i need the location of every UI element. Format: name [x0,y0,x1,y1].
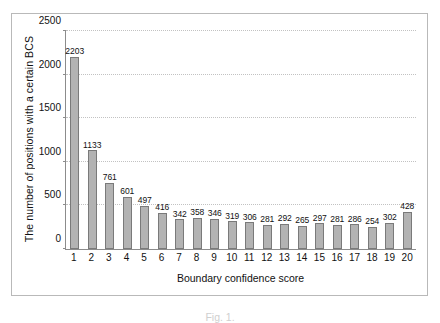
bar[interactable] [140,206,149,249]
bar-slot: 761 [101,31,119,249]
bar[interactable] [88,150,97,249]
bar[interactable] [368,227,377,249]
bar-value-label: 297 [313,214,327,223]
bar-value-label: 254 [365,217,379,226]
x-axis-title: Boundary confidence score [65,272,416,284]
x-axis-tick-label: 20 [398,252,416,266]
bar[interactable] [228,221,237,249]
x-axis-tick-label: 13 [276,252,294,266]
bar-value-label: 281 [330,215,344,224]
y-axis-tick-label: 1000 [39,145,61,156]
bar-value-label: 416 [155,203,169,212]
x-axis-tick-label: 2 [83,252,101,266]
bar-value-label: 1133 [83,141,101,150]
bar-value-label: 286 [348,215,362,224]
bar-series: 2203113376160149741634235834631930628129… [66,31,416,249]
bar[interactable] [245,222,254,249]
figure-caption-text: Fig. 1. [205,311,234,323]
bar-slot: 297 [311,31,329,249]
x-axis-tick-label: 14 [293,252,311,266]
bar-slot: 1133 [84,31,102,249]
bar-slot: 2203 [66,31,84,249]
bar-slot: 281 [259,31,277,249]
bar-value-label: 292 [278,214,292,223]
bar-slot: 497 [136,31,154,249]
bar[interactable] [123,197,132,249]
y-axis-tick-label: 1500 [39,102,61,113]
bar-slot: 346 [206,31,224,249]
bar-slot: 302 [381,31,399,249]
bar[interactable] [193,218,202,249]
bar[interactable] [70,57,79,249]
y-axis-tick-label: 500 [44,189,61,200]
bar-slot: 319 [224,31,242,249]
bar-slot: 265 [294,31,312,249]
bar-value-label: 761 [103,173,117,182]
bar-value-label: 428 [400,202,414,211]
bar[interactable] [280,224,289,249]
bar-value-label: 601 [120,187,134,196]
x-axis-tick-label: 15 [311,252,329,266]
bar[interactable] [298,226,307,249]
bar-slot: 254 [364,31,382,249]
x-axis-tick-label: 9 [205,252,223,266]
bar[interactable] [175,219,184,249]
x-axis-tick-label: 19 [381,252,399,266]
y-axis-tick-label: 0 [55,233,61,244]
y-axis-tick-label: 2000 [39,58,61,69]
bar-slot: 286 [346,31,364,249]
bar-value-label: 497 [138,196,152,205]
x-axis-tick-label: 12 [258,252,276,266]
x-axis-tick-label: 1 [65,252,83,266]
x-axis-tick-label: 18 [363,252,381,266]
plot-area: 05001000150020002500 2203113376160149741… [65,31,416,250]
x-axis-tick-label: 5 [135,252,153,266]
y-axis-title: The number of positions with a certain B… [21,30,37,248]
bar-slot: 601 [119,31,137,249]
x-axis-tick-label: 6 [153,252,171,266]
x-axis-tick-label: 16 [328,252,346,266]
x-axis-tick-label: 17 [346,252,364,266]
x-axis-tick-label: 7 [170,252,188,266]
bar-value-label: 265 [295,216,309,225]
bar-value-label: 358 [190,208,204,217]
bar[interactable] [315,223,324,249]
x-axis-title-label: Boundary confidence score [177,272,304,284]
x-axis-tick-label: 3 [100,252,118,266]
bar-slot: 428 [399,31,417,249]
bar[interactable] [385,223,394,249]
bar[interactable] [350,224,359,249]
x-axis-ticks: 1234567891011121314151617181920 [65,252,416,266]
y-axis-title-label: The number of positions with a certain B… [23,36,35,242]
bar-value-label: 302 [383,213,397,222]
bar-value-label: 306 [243,213,257,222]
x-axis-tick-label: 10 [223,252,241,266]
bar[interactable] [333,225,342,250]
bar-slot: 342 [171,31,189,249]
bar[interactable] [105,183,114,249]
bar-slot: 292 [276,31,294,249]
bar-value-label: 319 [225,212,239,221]
bar[interactable] [210,219,219,249]
figure-caption: Fig. 1. [0,311,440,323]
bar-slot: 358 [189,31,207,249]
chart-frame: The number of positions with a certain B… [11,13,428,296]
bar-slot: 416 [154,31,172,249]
bar[interactable] [403,212,412,249]
bar-value-label: 281 [260,215,274,224]
bar[interactable] [158,213,167,249]
bar-value-label: 2203 [65,47,84,56]
x-axis-tick-label: 8 [188,252,206,266]
plot-canvas: 05001000150020002500 2203113376160149741… [65,31,416,250]
y-axis-tick-label: 2500 [39,15,61,26]
bar-value-label: 346 [208,209,222,218]
bar-value-label: 342 [173,210,187,219]
bar[interactable] [263,225,272,250]
bar-slot: 281 [329,31,347,249]
bar-slot: 306 [241,31,259,249]
x-axis-tick-label: 4 [118,252,136,266]
x-axis-tick-label: 11 [240,252,258,266]
